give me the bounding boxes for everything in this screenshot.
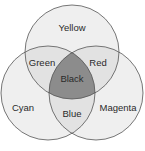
label-black: Black [60,73,83,84]
label-magenta: Magenta [100,102,138,113]
label-cyan: Cyan [12,102,34,113]
venn-diagram: Yellow Green Red Black Cyan Blue Magenta [0,0,145,151]
label-yellow: Yellow [58,22,85,33]
label-green: Green [29,57,55,68]
label-blue: Blue [62,108,81,119]
label-red: Red [89,57,106,68]
venn-svg: Yellow Green Red Black Cyan Blue Magenta [0,0,145,151]
